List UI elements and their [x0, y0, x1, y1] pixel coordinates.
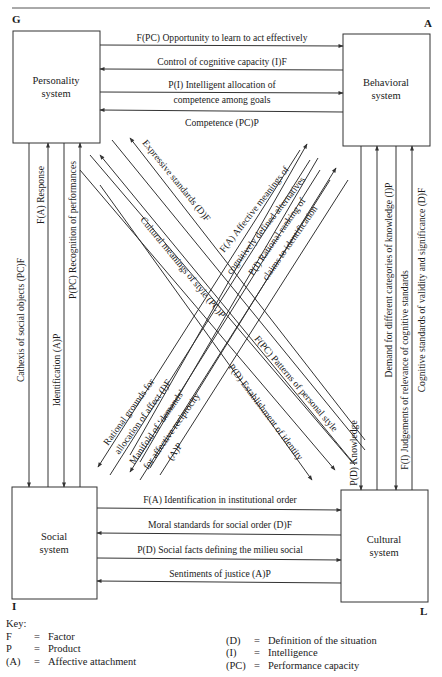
key-row: F = Factor [6, 631, 216, 644]
diag-arrow-affective-meanings [130, 144, 307, 455]
diag-label-expressive-standards: Expressive standards (D)F [140, 137, 213, 224]
right-flow-label-2: Demand for different categories of knowl… [383, 183, 395, 378]
bottom-flow-label-2: Moral standards for social order (D)F [148, 519, 292, 531]
bottom-flow-label-4: Sentiments of justice (A)P [169, 568, 271, 580]
diag-label-cultural-meanings: Cultural meanings of style (PC)P [138, 214, 228, 320]
right-flows: P(D) Knowledge Demand for different cate… [348, 146, 428, 490]
key-row: (PC) = Performance capacity [226, 660, 436, 673]
top-flow-label-3b: competence among goals [174, 94, 271, 105]
top-flow-label-2: Control of cognitive capacity (I)F [157, 56, 286, 68]
top-flow-label-1: F(PC) Opportunity to learn to act effect… [137, 32, 308, 44]
left-flow-label-1: Cathexis of social objects (PC)F [15, 258, 27, 382]
left-flows: Cathexis of social objects (PC)F F(A) Re… [15, 143, 80, 487]
diag-line-rational-ranking-underline [160, 180, 348, 475]
behavioral-system-box: Behavioral system [343, 34, 430, 146]
personality-label-1: Personality [32, 75, 80, 86]
key-description: Definition of the situation [268, 635, 377, 648]
top-flows: F(PC) Opportunity to learn to act effect… [100, 32, 343, 129]
left-flow-label-2: F(A) Response [35, 166, 47, 224]
bottom-flow-label-1: F(A) Identification in institutional ord… [143, 494, 297, 506]
key-column-right: (D) = Definition of the situation (I) = … [216, 631, 436, 673]
personality-label-2: system [41, 88, 70, 99]
social-system-box: Social system [12, 487, 97, 599]
action-system-diagram: G A I L Personality system Behavioral sy… [0, 0, 442, 620]
key-symbol: (A) [6, 656, 34, 669]
key-symbol: (D) [226, 635, 254, 648]
key-row: (D) = Definition of the situation [226, 635, 436, 648]
personality-system-box: Personality system [13, 31, 100, 143]
top-flow-label-3a: P(I) Intelligent allocation of [168, 79, 276, 91]
key-equals: = [254, 647, 268, 660]
left-flow-label-3: Identification (A)P [51, 334, 63, 407]
cultural-system-box: Cultural system [341, 490, 428, 602]
corner-g: G [12, 13, 21, 25]
key-description: Affective attachment [48, 656, 136, 669]
right-flow-label-4: Cognitive standards of validity and sign… [416, 188, 428, 393]
key-title: Key: [6, 618, 436, 631]
bottom-flows: F(A) Identification in institutional ord… [97, 494, 341, 583]
key-description: Factor [48, 631, 75, 644]
key-column-left: F = Factor P = Product (A) = Affective a… [6, 631, 216, 673]
bottom-flow-arrow-2 [97, 533, 341, 535]
bottom-flow-arrow-1 [97, 508, 341, 510]
bottom-flow-label-3: P(D) Social facts defining the milieu so… [137, 544, 303, 556]
left-flow-label-4: P(PC) Recognition of performances [67, 161, 79, 299]
bottom-flow-arrow-3 [97, 558, 341, 560]
key-symbol: (I) [226, 647, 254, 660]
behavioral-label-2: system [371, 90, 400, 101]
key-equals: = [34, 643, 48, 656]
key-description: Product [48, 643, 81, 656]
key-equals: = [34, 656, 48, 669]
behavioral-label-1: Behavioral [363, 77, 409, 88]
legend-key: Key: F = Factor P = Product (A) = Affect… [6, 618, 436, 672]
key-equals: = [34, 631, 48, 644]
right-flow-label-1: P(D) Knowledge [348, 420, 360, 485]
key-symbol: P [6, 643, 34, 656]
social-label-1: Social [41, 531, 67, 542]
top-flow-label-4: Competence (PC)P [185, 117, 259, 129]
key-symbol: F [6, 631, 34, 644]
top-flow-arrow-4 [100, 110, 343, 112]
top-flow-arrow-2 [100, 69, 343, 70]
social-label-2: system [39, 544, 68, 555]
key-description: Intelligence [268, 647, 318, 660]
corner-i: I [12, 600, 16, 612]
cultural-label-1: Cultural [367, 534, 401, 545]
key-row: (I) = Intelligence [226, 647, 436, 660]
corner-l: L [420, 605, 427, 617]
top-flow-arrow-3 [100, 92, 343, 93]
cultural-label-2: system [369, 547, 398, 558]
top-flow-arrow-1 [100, 45, 343, 46]
key-equals: = [254, 635, 268, 648]
key-description: Performance capacity [268, 660, 359, 673]
key-symbol: (PC) [226, 660, 254, 673]
corner-a: A [424, 17, 432, 29]
key-equals: = [254, 660, 268, 673]
key-row: P = Product [6, 643, 216, 656]
key-row: (A) = Affective attachment [6, 656, 216, 669]
bottom-flow-arrow-4 [97, 581, 341, 583]
right-flow-label-3: F(I) Judgements of relevance of cognitiv… [399, 270, 411, 470]
